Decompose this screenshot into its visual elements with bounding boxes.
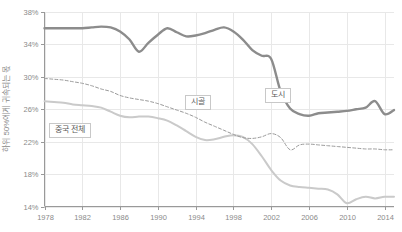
y-axis-ticks: 38%34%30%26%22%18%14%	[23, 8, 44, 212]
y-tick-label: 18%	[23, 170, 38, 179]
y-tick-label: 30%	[23, 73, 38, 82]
x-tick-label: 1986	[112, 213, 129, 222]
y-axis: 38%34%30%26%22%18%14%	[23, 8, 44, 212]
series-annotation-label: 도시	[265, 88, 291, 103]
y-tick-label: 38%	[23, 8, 38, 17]
x-tick-label: 1998	[225, 213, 242, 222]
x-tick-label: 2010	[339, 213, 356, 222]
y-tick-label: 34%	[23, 40, 38, 49]
series-annotation-text: 도시	[271, 90, 285, 99]
chart-container: 38%34%30%26%22%18%14% 197819821986199019…	[0, 0, 402, 232]
x-tick-label: 2006	[301, 213, 318, 222]
line-chart: 38%34%30%26%22%18%14% 197819821986199019…	[0, 0, 402, 232]
series-lines	[45, 27, 395, 204]
x-tick-label: 1982	[74, 213, 91, 222]
series-annotation-label: 중국 전체	[49, 123, 91, 138]
x-tick-label: 1978	[37, 213, 54, 222]
x-tick-label: 1990	[150, 213, 167, 222]
y-axis-title: 하위 50%에게 귀속되는 몫	[1, 66, 11, 152]
series-line-rural	[45, 101, 395, 203]
x-tick-label: 2002	[263, 213, 280, 222]
x-axis-ticks: 1978198219861990199419982002200620102014	[37, 207, 394, 222]
x-tick-label: 2014	[377, 213, 394, 222]
x-axis: 1978198219861990199419982002200620102014	[37, 207, 394, 222]
series-annotation-label: 시골	[185, 95, 211, 110]
y-tick-label: 26%	[23, 105, 38, 114]
series-annotation-text: 시골	[191, 97, 205, 106]
x-tick-label: 1994	[188, 213, 205, 222]
grid-lines	[45, 12, 395, 208]
y-tick-label: 14%	[23, 203, 38, 212]
series-line-total	[45, 78, 395, 150]
y-axis-title-text: 하위 50%에게 귀속되는 몫	[1, 66, 11, 152]
series-annotation-text: 중국 전체	[55, 125, 85, 134]
y-tick-label: 22%	[23, 138, 38, 147]
series-line-urban	[45, 27, 395, 116]
